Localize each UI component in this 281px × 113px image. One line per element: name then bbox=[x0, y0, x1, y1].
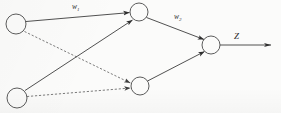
edge-input1-to-hidden1 bbox=[26, 13, 130, 22]
output-label-z: Z bbox=[234, 31, 240, 41]
node-hidden-1[interactable] bbox=[130, 3, 148, 21]
neural-network-diagram: w1 w2 Z bbox=[0, 0, 281, 113]
node-input-1[interactable] bbox=[6, 14, 26, 34]
node-hidden-2[interactable] bbox=[131, 77, 149, 95]
edge-label-w1: w1 bbox=[72, 2, 80, 12]
edge-hidden2-to-output bbox=[148, 52, 205, 82]
edge-label-w1-subscript: 1 bbox=[77, 7, 80, 12]
edge-label-w2-subscript: 2 bbox=[179, 17, 182, 22]
edge-input1-to-hidden2 bbox=[25, 32, 131, 84]
node-output-1[interactable] bbox=[202, 36, 220, 54]
edge-input2-to-hidden1 bbox=[25, 20, 133, 91]
edge-label-w2: w2 bbox=[174, 12, 182, 22]
node-input-2[interactable] bbox=[7, 88, 27, 108]
edge-input2-to-hidden2 bbox=[27, 88, 131, 97]
diagram-canvas: w1 w2 Z bbox=[0, 0, 281, 113]
